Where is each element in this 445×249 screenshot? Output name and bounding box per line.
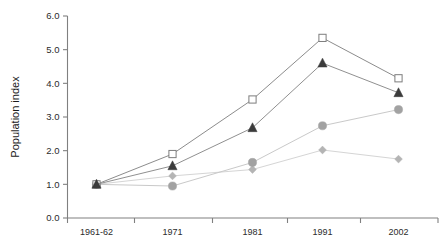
- data-point-triangle: [394, 88, 403, 97]
- data-point-triangle: [168, 161, 177, 170]
- data-point-square: [169, 150, 176, 157]
- data-point-circle: [394, 105, 402, 113]
- y-axis-tick-label: 2.0: [46, 145, 59, 156]
- y-axis-tick-label: 6.0: [46, 10, 59, 21]
- series-filled-circle: [92, 105, 402, 190]
- data-point-circle: [248, 158, 256, 166]
- y-axis-tick-label: 1.0: [46, 179, 59, 190]
- series-line: [97, 150, 399, 184]
- x-axis-tick-label: 1961-62: [80, 227, 113, 237]
- data-point-square: [395, 75, 402, 82]
- series-open-square: [93, 34, 402, 188]
- series-line: [97, 110, 399, 186]
- series-filled-triangle: [92, 58, 403, 188]
- x-axis-tick-label: 1971: [162, 227, 182, 237]
- population-index-line-chart: 0.01.02.03.04.05.06.01961-62197119811991…: [0, 0, 445, 249]
- series-line: [97, 38, 399, 184]
- data-point-diamond: [395, 155, 403, 163]
- y-axis-tick-label: 4.0: [46, 78, 59, 89]
- data-point-square: [249, 96, 256, 103]
- data-point-diamond: [169, 172, 177, 180]
- data-point-square: [319, 34, 326, 41]
- series-group: [92, 34, 403, 190]
- x-axis-tick-label: 1981: [242, 227, 262, 237]
- y-axis-title: Population index: [9, 76, 21, 158]
- chart-canvas: 0.01.02.03.04.05.06.01961-62197119811991…: [0, 0, 445, 249]
- axes-group: 0.01.02.03.04.05.06.01961-62197119811991…: [46, 10, 438, 237]
- y-axis-tick-label: 0.0: [46, 212, 59, 223]
- y-axis-tick-label: 5.0: [46, 44, 59, 55]
- y-axis-tick-label: 3.0: [46, 111, 59, 122]
- data-point-circle: [318, 122, 326, 130]
- data-point-triangle: [318, 58, 327, 67]
- data-point-diamond: [319, 146, 327, 154]
- x-axis-tick-label: 2002: [388, 227, 408, 237]
- data-point-triangle: [248, 123, 257, 132]
- x-axis-tick-label: 1991: [312, 227, 332, 237]
- data-point-circle: [168, 182, 176, 190]
